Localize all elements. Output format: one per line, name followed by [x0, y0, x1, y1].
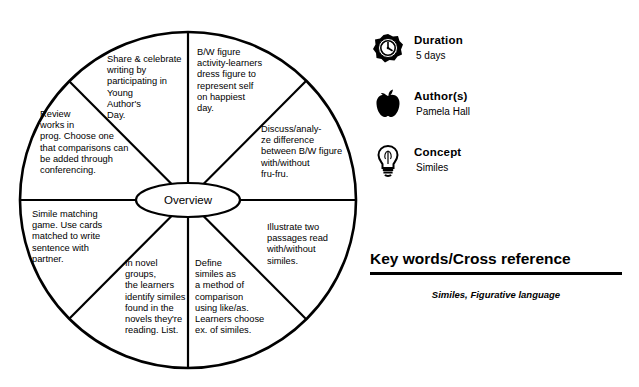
- overview-wheel: Overview B/W figure activity-learners dr…: [18, 14, 358, 372]
- apple-icon: [372, 88, 404, 122]
- keywords-section: Key words/Cross reference Similes, Figur…: [370, 250, 622, 300]
- info-author: Author(s) Pamela Hall: [372, 88, 470, 122]
- wheel-segment-define-similes: Define similes as a method of comparison…: [195, 258, 283, 336]
- wheel-segment-novel-groups: In novel groups, the learners identify s…: [125, 258, 193, 336]
- info-author-label: Author(s): [414, 89, 470, 103]
- info-concept-label: Concept: [414, 145, 461, 159]
- wheel-segment-b-w-figure-activity: B/W figure activity-learners dress figur…: [197, 47, 289, 114]
- info-author-text: Author(s) Pamela Hall: [414, 88, 470, 119]
- keywords-title: Key words/Cross reference: [370, 250, 622, 268]
- info-duration-value: 5 days: [416, 49, 463, 63]
- wheel-segment-discuss-difference: Discuss/analy- ze difference between B/W…: [261, 124, 357, 180]
- info-duration: Duration 5 days: [372, 32, 463, 66]
- info-author-value: Pamela Hall: [416, 105, 470, 119]
- keywords-value: Similes, Figurative language: [370, 289, 622, 300]
- info-concept-value: Similes: [416, 161, 461, 175]
- clock-icon: [372, 32, 404, 66]
- info-duration-text: Duration 5 days: [414, 32, 463, 63]
- wheel-center-label: Overview: [136, 184, 240, 216]
- wheel-segment-share-celebrate-writing: Share & celebrate writing by participati…: [107, 54, 195, 121]
- info-concept-text: Concept Similes: [414, 144, 461, 175]
- info-duration-label: Duration: [414, 33, 463, 47]
- keywords-divider: [370, 272, 622, 275]
- worksheet-page: Overview B/W figure activity-learners dr…: [0, 0, 639, 387]
- wheel-segment-simile-matching-game: Simile matching game. Use cards matched …: [32, 209, 136, 265]
- lightbulb-icon: [372, 144, 404, 178]
- info-concept: Concept Similes: [372, 144, 461, 178]
